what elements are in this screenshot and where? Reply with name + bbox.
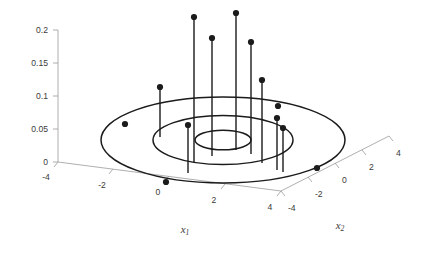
x2-tick-0 [335, 163, 339, 168]
stem-plot-3d: 0 0.05 0.1 0.15 0.2 -4 -2 0 2 4 -4 -2 0 … [0, 0, 427, 253]
stem-marker [233, 10, 239, 16]
stem-item [233, 10, 239, 150]
x2-ticklabel-0: -4 [288, 203, 296, 213]
stem-marker [248, 39, 254, 45]
contour-rings [101, 97, 345, 183]
stem-marker [274, 115, 280, 121]
stem-marker [191, 14, 197, 20]
z-ticklabel-3: 0.15 [31, 58, 48, 68]
x2-ticklabel-2: 0 [342, 175, 347, 185]
outer-contour-ring [101, 97, 345, 183]
x1-ticklabel-4: 4 [268, 202, 273, 212]
z-ticklabel-4: 0.2 [36, 25, 48, 35]
stem-item [163, 179, 169, 185]
x2-ticklabel-1: -2 [315, 189, 323, 199]
x2-tick--4 [281, 191, 285, 196]
x2-ticklabel-3: 2 [369, 162, 374, 172]
z-ticklabel-0: 0 [43, 157, 48, 167]
x1-tick-4 [277, 191, 281, 196]
z-ticklabel-1: 0.05 [31, 124, 48, 134]
stem-item [191, 14, 197, 162]
stem-item [185, 122, 191, 173]
stem-item [122, 121, 128, 127]
x2-axis-title-sub: 2 [341, 224, 345, 233]
x1-axis-title-sub: 1 [186, 228, 190, 237]
x1-axis-title: x1 [180, 223, 190, 237]
stem-marker [122, 121, 128, 127]
z-ticklabel-2: 0.1 [36, 91, 48, 101]
x1-tick--4 [54, 162, 58, 167]
stem-marker [275, 103, 281, 109]
stem-item [314, 165, 320, 171]
figure-container: 0 0.05 0.1 0.15 0.2 -4 -2 0 2 4 -4 -2 0 … [0, 0, 427, 253]
stem-item [275, 103, 281, 109]
stem-marker [314, 165, 320, 171]
stem-marker [157, 84, 163, 90]
x1-tick--2 [109, 169, 113, 174]
x1-axis-line [58, 162, 281, 191]
x2-tick-4 [389, 136, 393, 141]
x1-tick-2 [221, 184, 225, 189]
x1-tick-labels: -4 -2 0 2 4 [42, 172, 272, 212]
stem-item [280, 125, 286, 172]
stem-marker [209, 35, 215, 41]
stem-marker [185, 122, 191, 128]
x2-tick-2 [362, 150, 366, 155]
stem-item [157, 84, 163, 137]
z-tick-labels: 0 0.05 0.1 0.15 0.2 [31, 25, 48, 167]
x1-ticklabel-3: 2 [212, 195, 217, 205]
axis-frame [53, 30, 393, 196]
x1-ticklabel-0: -4 [42, 172, 50, 182]
stem-marker [163, 179, 169, 185]
stem-marker [280, 125, 286, 131]
x2-tick-labels: -4 -2 0 2 4 [288, 148, 401, 213]
x1-ticklabel-2: 0 [156, 187, 161, 197]
x2-tick--2 [308, 177, 312, 182]
stem-marker [259, 77, 265, 83]
x1-ticklabel-1: -2 [98, 180, 106, 190]
x2-axis-title: x2 [335, 219, 345, 233]
x2-ticklabel-4: 4 [396, 148, 401, 158]
middle-contour-ring [153, 115, 293, 164]
stem-item [209, 35, 215, 156]
inner-contour-ring [195, 130, 251, 150]
